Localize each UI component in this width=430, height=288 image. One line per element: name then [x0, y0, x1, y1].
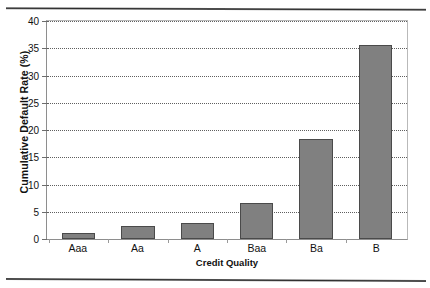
bar-slot-a [168, 21, 227, 239]
plot-area: 0510152025303540 [46, 20, 408, 240]
page-rule-bottom [6, 278, 426, 282]
y-tick-label-35: 35 [28, 43, 39, 54]
y-tick-label-40: 40 [28, 16, 39, 27]
bar-slot-aaa [49, 21, 108, 239]
x-tick-label-a: A [167, 242, 227, 254]
bar-ba [299, 139, 332, 239]
bar-aa [121, 226, 154, 239]
x-tick-label-baa: Baa [227, 242, 287, 254]
y-tick-label-10: 10 [28, 179, 39, 190]
bar-chart-figure: Cumulative Default Rate (%) 051015202530… [0, 12, 430, 274]
y-tick-label-15: 15 [28, 152, 39, 163]
bar-slot-baa [227, 21, 286, 239]
bar-slot-aa [108, 21, 167, 239]
x-axis-tick-labels: AaaAaABaaBaB [46, 242, 408, 254]
bar-baa [240, 203, 273, 240]
x-tick-label-aaa: Aaa [48, 242, 108, 254]
x-tick-label-ba: Ba [287, 242, 347, 254]
page-rule-top [6, 7, 426, 11]
y-tick-label-30: 30 [28, 70, 39, 81]
y-tick-0 [42, 239, 47, 240]
y-tick-label-25: 25 [28, 97, 39, 108]
y-tick-label-5: 5 [33, 206, 39, 217]
y-tick-label-0: 0 [33, 234, 39, 245]
x-tick-label-b: B [346, 242, 406, 254]
x-axis-title: Credit Quality [46, 257, 408, 268]
bars-group [47, 21, 407, 239]
bar-b [359, 45, 392, 239]
bar-slot-b [346, 21, 405, 239]
x-tick-label-aa: Aa [108, 242, 168, 254]
y-tick-label-20: 20 [28, 125, 39, 136]
bar-slot-ba [286, 21, 345, 239]
bar-aaa [62, 233, 95, 239]
bar-a [181, 223, 214, 239]
